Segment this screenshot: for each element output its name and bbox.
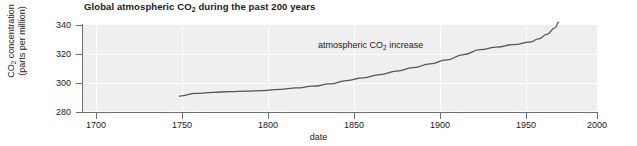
x-tick-label-2000: 2000	[587, 120, 607, 130]
gridline-y-300	[83, 83, 597, 84]
y-tick-mark-340	[76, 25, 82, 26]
x-tick-label-1800: 1800	[258, 120, 278, 130]
y-axis-title-line2: (parts per million)	[17, 0, 28, 96]
x-axis-line	[82, 112, 598, 113]
y-tick-label-280: 280	[56, 107, 71, 117]
gridline-x-1700	[96, 25, 97, 112]
y-tick-mark-300	[76, 83, 82, 84]
x-tick-mark-2000	[597, 113, 598, 119]
chart-title-suffix: during the past 200 years	[196, 1, 316, 12]
plot-area	[83, 25, 597, 112]
y-axis-line	[82, 24, 83, 113]
x-tick-label-1900: 1900	[430, 120, 450, 130]
annotation-suffix: increase	[387, 40, 424, 50]
y-tick-label-320: 320	[56, 49, 71, 59]
annotation-subscript: 2	[383, 44, 387, 51]
x-tick-label-1950: 1950	[516, 120, 536, 130]
y-axis-title: CO2 concentration (parts per million)	[6, 0, 28, 96]
gridline-x-1850	[354, 25, 355, 112]
gridline-x-1950	[526, 25, 527, 112]
x-tick-mark-1950	[526, 113, 527, 119]
x-tick-label-1700: 1700	[86, 120, 106, 130]
gridline-x-1750	[182, 25, 183, 112]
y-tick-mark-320	[76, 54, 82, 55]
y-axis-title-subscript: 2	[10, 61, 17, 65]
x-tick-mark-1850	[354, 113, 355, 119]
gridline-y-320	[83, 54, 597, 55]
chart-title-prefix: Global atmospheric CO	[84, 1, 192, 12]
y-axis-title-prefix: CO	[6, 64, 16, 78]
x-tick-mark-1700	[96, 113, 97, 119]
chart-figure: Global atmospheric CO2 during the past 2…	[0, 0, 637, 146]
chart-title: Global atmospheric CO2 during the past 2…	[84, 1, 316, 12]
gridline-x-1800	[268, 25, 269, 112]
x-tick-label-1850: 1850	[344, 120, 364, 130]
chart-title-subscript: 2	[192, 6, 196, 13]
gridline-x-1900	[440, 25, 441, 112]
x-tick-mark-1750	[182, 113, 183, 119]
x-tick-label-1750: 1750	[172, 120, 192, 130]
y-axis-title-suffix: concentration	[6, 4, 16, 61]
y-tick-label-340: 340	[56, 20, 71, 30]
x-tick-mark-1900	[440, 113, 441, 119]
x-axis-title: date	[0, 132, 637, 142]
annotation-prefix: atmospheric CO	[318, 40, 383, 50]
series-annotation-label: atmospheric CO2 increase	[318, 40, 423, 50]
y-axis-title-line1: CO2 concentration	[6, 0, 17, 96]
y-tick-mark-280	[76, 112, 82, 113]
y-tick-label-300: 300	[56, 78, 71, 88]
x-tick-mark-1800	[268, 113, 269, 119]
